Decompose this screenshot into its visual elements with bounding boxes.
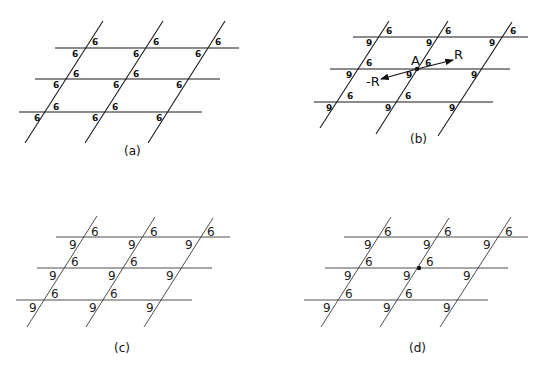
motif-label: 6 xyxy=(156,113,162,123)
motif-label-6: 6 xyxy=(207,225,215,239)
motif-label-9: 9 xyxy=(146,301,154,315)
motif-label-6: 6 xyxy=(505,225,513,239)
motif-label-9: 9 xyxy=(364,238,372,252)
motif-label: 6 xyxy=(73,69,79,79)
motif-label-6: 6 xyxy=(51,287,59,301)
panel-b: 6 9 6 9 6 9 6 9 6 9 9 6 9 6 9 9 A R -R (… xyxy=(314,21,528,146)
motif-label-9: 9 xyxy=(344,269,352,283)
motif-label: 6 xyxy=(113,80,119,90)
motif-label: 6 xyxy=(92,37,98,47)
motif-label-6: 6 xyxy=(384,225,392,239)
motif-label-9: 9 xyxy=(166,269,174,283)
motif-label-9: 9 xyxy=(185,238,193,252)
motif-label-9: 9 xyxy=(323,301,331,315)
motif-label-9: 9 xyxy=(383,301,391,315)
motif-label-9: 9 xyxy=(89,301,97,315)
motif-label: 6 xyxy=(153,37,159,47)
motif-label-9: 9 xyxy=(29,301,37,315)
panel-a: 6 6 6 6 6 6 6 6 6 6 6 6 6 6 6 6 (a) xyxy=(19,21,239,158)
motif-label-9: 9 xyxy=(449,103,455,113)
motif-label-6: 6 xyxy=(445,26,451,36)
panel-d: 6 9 6 9 6 9 6 9 6 9 9 6 9 6 9 9 (d) xyxy=(304,217,528,355)
motif-label-9: 9 xyxy=(366,38,372,48)
motif-label-9: 9 xyxy=(346,70,352,80)
motif-label-9: 9 xyxy=(108,269,116,283)
motif-label: 6 xyxy=(53,80,59,90)
motif-label: 6 xyxy=(176,80,182,90)
motif-label-9: 9 xyxy=(426,38,432,48)
motif-label-6: 6 xyxy=(110,287,118,301)
motif-label-9: 9 xyxy=(463,269,471,283)
motif-label-9: 9 xyxy=(49,269,57,283)
slant-line xyxy=(148,21,225,143)
motif-label-6: 6 xyxy=(426,255,434,269)
motif-label: 6 xyxy=(133,49,139,59)
point-label-a: A xyxy=(411,53,420,68)
motif-label-6: 6 xyxy=(510,26,516,36)
motif-label-6: 6 xyxy=(91,225,99,239)
motif-label-6: 6 xyxy=(405,287,413,301)
motif-label-9: 9 xyxy=(423,238,431,252)
motif-label: 6 xyxy=(195,49,201,59)
motif-label-9: 9 xyxy=(443,301,451,315)
panel-caption-c: (c) xyxy=(114,341,130,355)
panel-c: 6 9 6 9 6 9 6 9 6 9 9 6 9 6 9 9 (c) xyxy=(16,216,230,355)
motif-label-9: 9 xyxy=(483,238,491,252)
motif-label: 6 xyxy=(112,102,118,112)
motif-label-6: 6 xyxy=(386,26,392,36)
motif-label: 6 xyxy=(215,37,221,47)
motif-label-9: 9 xyxy=(403,269,411,283)
motif-label-9: 9 xyxy=(489,38,495,48)
motif-label-9: 9 xyxy=(385,103,391,113)
motif-label-6: 6 xyxy=(345,287,353,301)
motif-label-6: 6 xyxy=(150,225,158,239)
vector-r-label: R xyxy=(454,47,463,62)
motif-label: 6 xyxy=(34,113,40,123)
inversion-center-point xyxy=(417,266,421,270)
motif-label-9: 9 xyxy=(69,238,77,252)
motif-label-6: 6 xyxy=(130,255,138,269)
lattice-figure: 6 6 6 6 6 6 6 6 6 6 6 6 6 6 6 6 (a) 6 9 … xyxy=(0,0,548,366)
motif-label: 6 xyxy=(92,113,98,123)
motif-label-9: 9 xyxy=(128,238,136,252)
panel-caption-d: (d) xyxy=(409,341,426,355)
motif-label-9: 9 xyxy=(471,70,477,80)
motif-label-6: 6 xyxy=(444,225,452,239)
motif-label-6: 6 xyxy=(365,255,373,269)
slant-line xyxy=(27,216,97,327)
motif-label-6: 6 xyxy=(366,58,372,68)
motif-label-6: 6 xyxy=(71,255,79,269)
vector-neg-r-label: -R xyxy=(366,74,380,89)
panel-caption-a: (a) xyxy=(124,144,141,158)
slant-line xyxy=(321,217,391,327)
motif-label-6: 6 xyxy=(405,91,411,101)
motif-label: 6 xyxy=(133,69,139,79)
motif-label: 6 xyxy=(53,102,59,112)
panel-caption-b: (b) xyxy=(410,132,427,146)
motif-label-9: 9 xyxy=(326,103,332,113)
motif-label-6: 6 xyxy=(347,91,353,101)
motif-label: 6 xyxy=(72,49,78,59)
